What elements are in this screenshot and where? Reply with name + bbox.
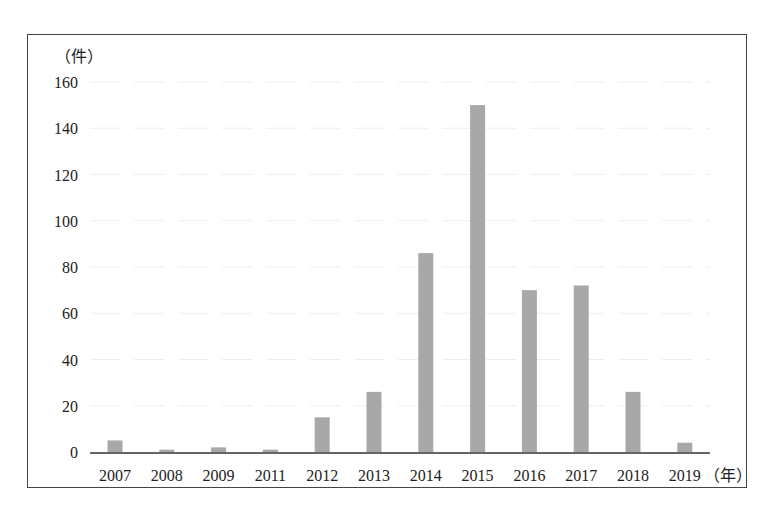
y-tick-label: 60 <box>62 305 78 322</box>
x-tick-label: 2018 <box>617 467 649 484</box>
y-tick-label: 40 <box>62 352 78 369</box>
bar-2014 <box>418 253 433 452</box>
bar-2008 <box>159 450 174 452</box>
y-axis-unit-label: （件） <box>55 48 103 65</box>
x-tick-label: 2015 <box>462 467 494 484</box>
x-tick-label: 2007 <box>99 467 131 484</box>
bar-2019 <box>677 443 692 452</box>
y-tick-label: 0 <box>70 444 78 461</box>
y-tick-label: 160 <box>54 74 78 91</box>
x-tick-label: 2009 <box>203 467 235 484</box>
x-tick-label: 2011 <box>255 467 286 484</box>
x-tick-label: 2013 <box>358 467 390 484</box>
bar-2017 <box>574 286 589 453</box>
y-tick-label: 120 <box>54 167 78 184</box>
bar-chart: 020406080100120140160 200720082009201120… <box>0 0 775 528</box>
bar-2012 <box>315 417 330 452</box>
bar-2007 <box>108 440 123 452</box>
gridlines <box>90 82 710 406</box>
x-tick-label: 2019 <box>669 467 701 484</box>
bar-2011 <box>263 450 278 452</box>
y-tick-labels: 020406080100120140160 <box>54 74 78 461</box>
x-tick-label: 2016 <box>513 467 545 484</box>
x-axis-unit-label: （年） <box>704 467 752 484</box>
bar-2018 <box>626 392 641 452</box>
bar-2009 <box>211 447 226 452</box>
y-tick-label: 100 <box>54 213 78 230</box>
bar-2015 <box>470 105 485 452</box>
x-tick-label: 2014 <box>410 467 442 484</box>
bar-2013 <box>367 392 382 452</box>
bar-2016 <box>522 290 537 452</box>
x-tick-label: 2008 <box>151 467 183 484</box>
x-tick-labels: 2007200820092011201220132014201520162017… <box>99 467 701 484</box>
y-tick-label: 20 <box>62 398 78 415</box>
y-tick-label: 140 <box>54 120 78 137</box>
x-tick-label: 2012 <box>306 467 338 484</box>
bars <box>108 105 693 452</box>
x-tick-label: 2017 <box>565 467 597 484</box>
y-tick-label: 80 <box>62 259 78 276</box>
